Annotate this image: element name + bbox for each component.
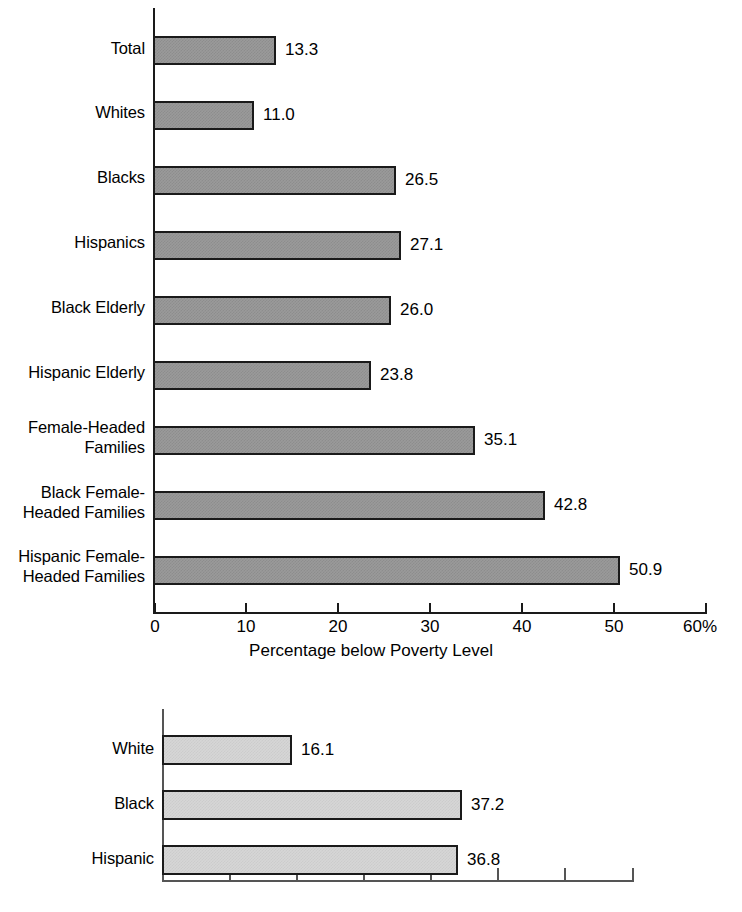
chart1-bar-hispanic-elderly <box>153 361 371 390</box>
chart1-cat-label-total: Total <box>0 38 145 58</box>
chart1-tick-0 <box>154 603 156 612</box>
chart1-bar-black-elderly <box>153 296 391 325</box>
chart1-value-hispanic-elderly: 23.8 <box>380 365 413 385</box>
chart2-cat-label-hispanic: Hispanic <box>0 848 154 868</box>
chart1-tick-60 <box>705 603 707 612</box>
chart-secondary-by-race: White Black Hispanic 16.1 37.2 36.8 <box>0 700 742 912</box>
chart1-cat-label-hispanic-elderly: Hispanic Elderly <box>0 362 145 382</box>
chart1-ticklabel-20: 20 <box>318 617 358 637</box>
chart1-tick-40 <box>521 603 523 612</box>
chart1-value-total: 13.3 <box>285 40 318 60</box>
chart1-x-axis <box>153 612 707 614</box>
chart1-tick-20 <box>337 603 339 612</box>
chart1-x-axis-title: Percentage below Poverty Level <box>0 641 742 661</box>
chart1-bar-blacks <box>153 166 396 195</box>
chart1-bar-hispanics <box>153 231 401 260</box>
chart1-ticklabel-40: 40 <box>502 617 542 637</box>
chart1-cat-label-black-elderly: Black Elderly <box>0 297 145 317</box>
chart1-cat-label-female-headed: Female-Headed Families <box>0 417 145 457</box>
chart2-bar-white <box>162 735 292 765</box>
chart1-tick-50 <box>613 603 615 612</box>
chart2-tick-7 <box>564 868 566 881</box>
chart1-value-black-elderly: 26.0 <box>400 300 433 320</box>
chart2-bar-hispanic <box>162 845 458 875</box>
chart1-cat-label-hispanic-female-headed: Hispanic Female- Headed Families <box>0 546 145 586</box>
chart1-ticklabel-0: 0 <box>135 617 175 637</box>
chart1-ticklabel-60: 60% <box>683 617 735 637</box>
chart1-bar-total <box>153 36 276 65</box>
chart1-value-blacks: 26.5 <box>405 170 438 190</box>
chart2-tick-8 <box>632 868 634 881</box>
chart1-bar-black-female-headed <box>153 491 545 520</box>
chart1-cat-label-whites: Whites <box>0 102 145 122</box>
chart2-value-hispanic: 36.8 <box>467 850 500 870</box>
chart2-value-white: 16.1 <box>301 740 334 760</box>
chart1-bar-whites <box>153 101 254 130</box>
chart1-ticklabel-30: 30 <box>410 617 450 637</box>
chart-poverty-by-group: 0 10 20 30 40 50 60% Percentage below Po… <box>0 0 742 670</box>
chart1-value-female-headed: 35.1 <box>484 430 517 450</box>
chart2-value-black: 37.2 <box>471 795 504 815</box>
chart2-cat-label-white: White <box>0 738 154 758</box>
chart2-cat-label-black: Black <box>0 793 154 813</box>
chart1-cat-label-black-female-headed: Black Female- Headed Families <box>0 482 145 522</box>
chart1-cat-label-hispanics: Hispanics <box>0 232 145 252</box>
chart1-tick-30 <box>429 603 431 612</box>
chart1-ticklabel-10: 10 <box>226 617 266 637</box>
chart1-bar-hispanic-female-headed <box>153 556 620 585</box>
chart1-bar-female-headed <box>153 426 475 455</box>
chart1-ticklabel-50: 50 <box>594 617 634 637</box>
poverty-bar-chart-figure: 0 10 20 30 40 50 60% Percentage below Po… <box>0 0 742 912</box>
chart1-value-whites: 11.0 <box>263 105 295 125</box>
chart2-bar-black <box>162 790 462 820</box>
chart1-cat-label-blacks: Blacks <box>0 167 145 187</box>
chart1-value-black-female-headed: 42.8 <box>554 495 587 515</box>
chart1-tick-10 <box>245 603 247 612</box>
chart1-value-hispanics: 27.1 <box>410 235 443 255</box>
chart1-value-hispanic-female-headed: 50.9 <box>629 560 662 580</box>
